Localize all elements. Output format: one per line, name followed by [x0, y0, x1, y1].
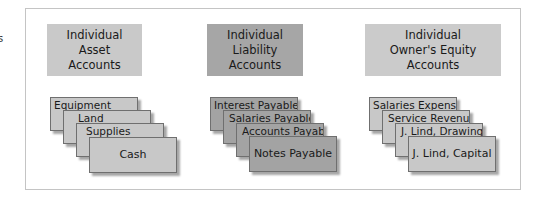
cropped-text-fragment: s [0, 33, 3, 44]
liability-card-notes-payable: Notes Payable [249, 136, 337, 172]
liability-accounts-header: Individual Liability Accounts [207, 24, 303, 76]
asset-card-cash: Cash [89, 137, 177, 173]
equity-accounts-header: Individual Owner's Equity Accounts [365, 24, 501, 76]
equity-card-capital: J. Lind, Capital [408, 136, 496, 172]
asset-accounts-header: Individual Asset Accounts [47, 24, 142, 76]
